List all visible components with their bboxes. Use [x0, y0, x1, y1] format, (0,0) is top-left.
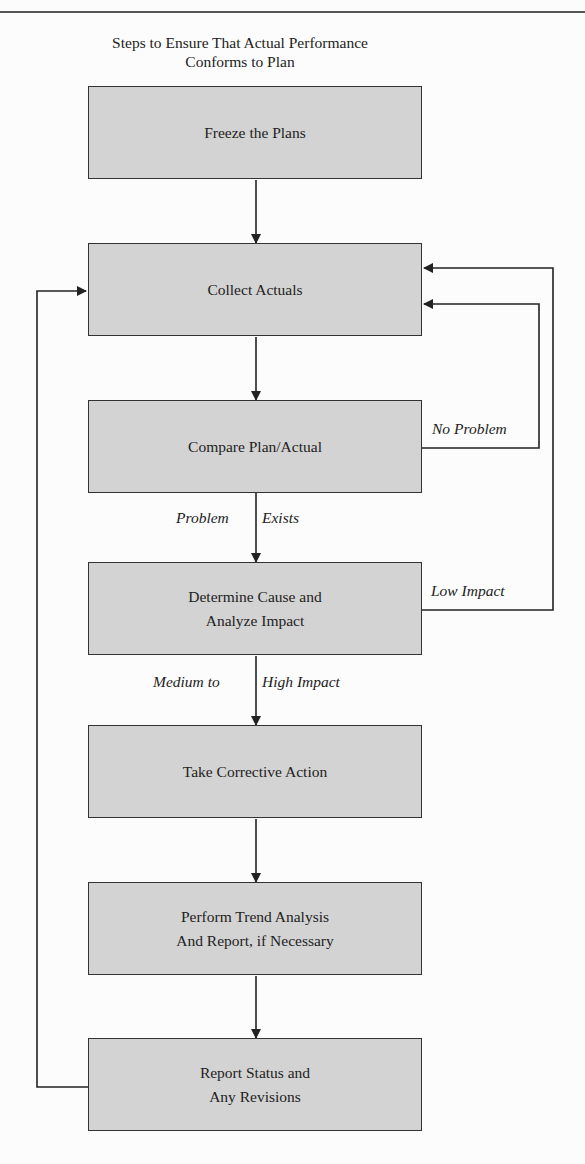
edge-label-no-problem: No Problem: [432, 420, 507, 438]
step-label-line-2: Analyze Impact: [188, 609, 321, 633]
step-label-line-1: Determine Cause and: [188, 585, 321, 609]
edge-label-medium-to: Medium to: [153, 673, 220, 691]
edge-label-high-impact: High Impact: [262, 673, 340, 691]
step-compare-plan-actual: Compare Plan/Actual: [88, 400, 422, 493]
step-label-line-2: And Report, if Necessary: [176, 929, 334, 953]
step-label-line-1: Report Status and: [200, 1061, 310, 1085]
step-freeze-plans: Freeze the Plans: [88, 86, 422, 179]
step-trend-analysis: Perform Trend Analysis And Report, if Ne…: [88, 882, 422, 975]
edge-label-exists: Exists: [262, 509, 299, 527]
step-report-status: Report Status and Any Revisions: [88, 1038, 422, 1131]
step-collect-actuals: Collect Actuals: [88, 243, 422, 336]
edge-label-low-impact: Low Impact: [431, 582, 505, 600]
step-label: Collect Actuals: [207, 278, 302, 302]
step-label-line-1: Perform Trend Analysis: [176, 905, 334, 929]
step-label: Take Corrective Action: [183, 760, 327, 784]
step-determine-cause: Determine Cause and Analyze Impact: [88, 562, 422, 655]
step-take-corrective-action: Take Corrective Action: [88, 725, 422, 818]
edge-label-problem: Problem: [176, 509, 229, 527]
step-label-line-2: Any Revisions: [200, 1085, 310, 1109]
step-label: Freeze the Plans: [204, 121, 306, 145]
step-label: Compare Plan/Actual: [188, 435, 322, 459]
